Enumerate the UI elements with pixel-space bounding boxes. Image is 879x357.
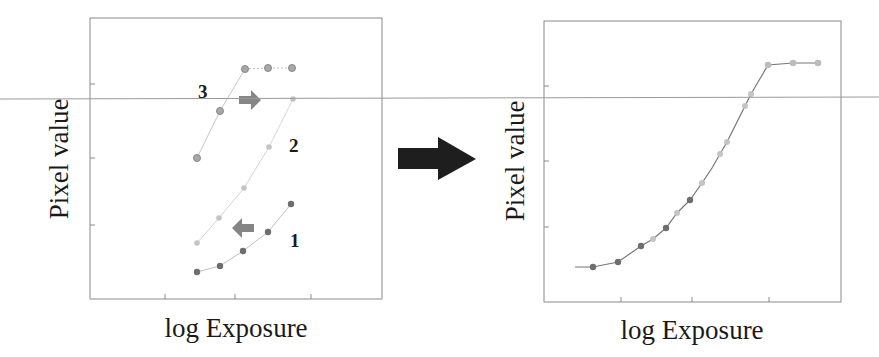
response-curve <box>575 63 818 267</box>
series-1 <box>194 201 294 275</box>
right-chart: log Exposure Pixel value <box>500 21 841 345</box>
series-3 <box>194 65 296 162</box>
left-chart: 3 2 1 log Exposure Pixel value <box>44 18 382 343</box>
overlay-horizontal-line <box>0 97 879 99</box>
left-axis-ticks <box>90 84 311 299</box>
left-plot-frame <box>90 18 382 299</box>
right-y-axis-label: Pixel value <box>500 101 530 222</box>
transform-arrow-icon <box>398 137 476 180</box>
series-1-label: 1 <box>290 230 300 251</box>
response-curve-points <box>590 60 822 270</box>
diagram-canvas: 3 2 1 log Exposure Pixel value <box>0 0 879 357</box>
left-x-axis-label: log Exposure <box>164 313 307 343</box>
shift-left-arrow-icon <box>232 218 254 238</box>
right-axis-ticks <box>544 86 769 302</box>
left-y-axis-label: Pixel value <box>44 99 74 220</box>
right-x-axis-label: log Exposure <box>620 315 763 345</box>
series-2-label: 2 <box>289 135 299 156</box>
series-2 <box>194 96 296 246</box>
shift-right-arrow-icon <box>239 90 261 110</box>
